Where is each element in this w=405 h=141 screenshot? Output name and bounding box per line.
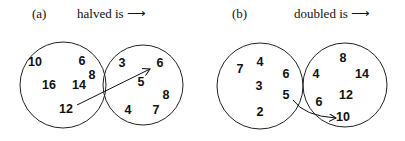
- diagram-b: (b) doubled is ⟶ 746352 841412610: [217, 6, 387, 129]
- set-element-7: 7: [153, 103, 160, 117]
- set-element-16: 16: [42, 78, 56, 92]
- diagram-a: (a) halved is ⟶ 1068161412 365847: [20, 6, 183, 128]
- set-mapping-diagrams: (a) halved is ⟶ 1068161412 365847 (b) do…: [0, 0, 405, 141]
- set-element-8: 8: [89, 68, 96, 82]
- set-element-2: 2: [257, 105, 264, 119]
- set-element-4: 4: [313, 67, 320, 81]
- set-element-3: 3: [119, 56, 126, 70]
- diagram-a-label: (a): [32, 6, 46, 21]
- set-element-6: 6: [283, 67, 290, 81]
- set-element-6: 6: [79, 54, 86, 68]
- set-element-6: 6: [316, 95, 323, 109]
- set-element-10: 10: [28, 55, 42, 69]
- set-element-8: 8: [340, 51, 347, 65]
- set-a-codomain-elements: 365847: [119, 56, 170, 117]
- set-element-5: 5: [138, 75, 145, 89]
- set-element-14: 14: [355, 67, 369, 81]
- set-element-12: 12: [339, 88, 353, 102]
- set-element-3: 3: [256, 79, 263, 93]
- set-element-12: 12: [59, 102, 73, 116]
- set-element-10: 10: [336, 110, 350, 124]
- set-element-5: 5: [283, 88, 290, 102]
- set-a-domain-elements: 1068161412: [28, 54, 95, 116]
- set-element-7: 7: [237, 62, 244, 76]
- diagram-b-label: (b): [232, 6, 247, 21]
- set-b-codomain-elements: 841412610: [313, 51, 369, 124]
- set-element-4: 4: [125, 103, 132, 117]
- diagram-a-relation: halved is ⟶: [77, 6, 146, 21]
- set-element-8: 8: [163, 88, 170, 102]
- diagram-b-relation: doubled is ⟶: [294, 6, 370, 21]
- set-element-6: 6: [157, 56, 164, 70]
- set-element-4: 4: [257, 55, 264, 69]
- set-element-14: 14: [72, 78, 86, 92]
- set-b-domain-elements: 746352: [237, 55, 290, 119]
